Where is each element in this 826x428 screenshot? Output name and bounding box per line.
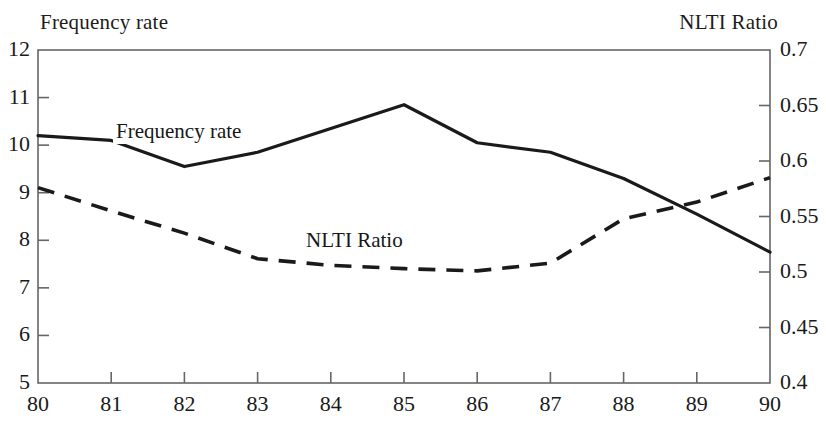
y2-axis-tick-label: 0.4 xyxy=(780,371,826,393)
y-axis-tick-label: 7 xyxy=(0,276,30,298)
x-axis-tick-label: 82 xyxy=(154,393,214,415)
y-axis-tick-label: 12 xyxy=(0,38,30,60)
y-axis-tick-label: 6 xyxy=(0,323,30,345)
x-axis-tick-label: 86 xyxy=(447,393,507,415)
y-axis-tick-label: 10 xyxy=(0,133,30,155)
y2-axis-tick-label: 0.45 xyxy=(780,316,826,338)
y2-axis-tick-label: 0.6 xyxy=(780,149,826,171)
series-annotation-nlti-ratio: NLTI Ratio xyxy=(303,228,406,253)
x-axis-ticks xyxy=(111,372,697,383)
y2-axis-tick-label: 0.55 xyxy=(780,205,826,227)
x-axis-tick-label: 87 xyxy=(520,393,580,415)
series-annotation-frequency-rate: Frequency rate xyxy=(113,119,244,144)
y-axis-tick-label: 5 xyxy=(0,371,30,393)
y2-axis-tick-label: 0.7 xyxy=(780,38,826,60)
axis-frame xyxy=(38,50,770,383)
y2-axis-tick-label: 0.5 xyxy=(780,260,826,282)
x-axis-tick-label: 85 xyxy=(374,393,434,415)
x-axis-tick-label: 84 xyxy=(301,393,361,415)
x-axis-tick-label: 90 xyxy=(740,393,800,415)
y-axis-tick-label: 9 xyxy=(0,181,30,203)
plot-area xyxy=(0,0,826,428)
x-axis-tick-label: 83 xyxy=(228,393,288,415)
series-line-nlti-ratio xyxy=(38,178,770,271)
x-axis-tick-label: 80 xyxy=(8,393,68,415)
y-axis-tick-label: 8 xyxy=(0,228,30,250)
x-axis-tick-label: 81 xyxy=(81,393,141,415)
right-axis-ticks xyxy=(759,106,770,328)
chart-figure: Frequency rate NLTI Ratio Frequency rate… xyxy=(0,0,826,428)
x-axis-tick-label: 88 xyxy=(594,393,654,415)
x-axis-tick-label: 89 xyxy=(667,393,727,415)
y2-axis-tick-label: 0.65 xyxy=(780,94,826,116)
y-axis-tick-label: 11 xyxy=(0,86,30,108)
left-axis-ticks xyxy=(38,98,49,336)
